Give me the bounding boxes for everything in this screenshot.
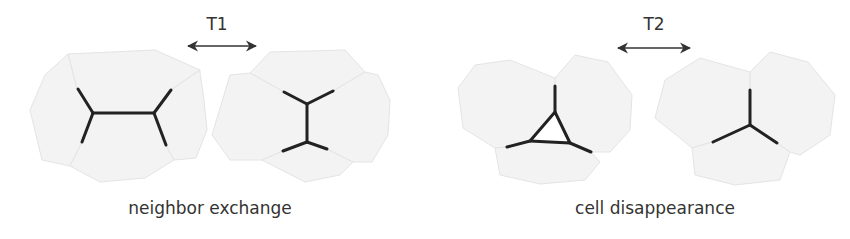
t1-after-cell-cluster <box>212 50 390 182</box>
t1-transition-label: T1 <box>206 14 227 34</box>
t2-transition-label: T2 <box>643 14 664 34</box>
t1-caption: neighbor exchange <box>128 198 292 218</box>
t2-caption: cell disappearance <box>575 198 735 218</box>
t1-before-cell-cluster <box>30 50 207 182</box>
t2-after-cell-cluster <box>655 52 835 185</box>
t2-before-cell-cluster <box>458 55 632 184</box>
cell-left <box>458 60 555 148</box>
